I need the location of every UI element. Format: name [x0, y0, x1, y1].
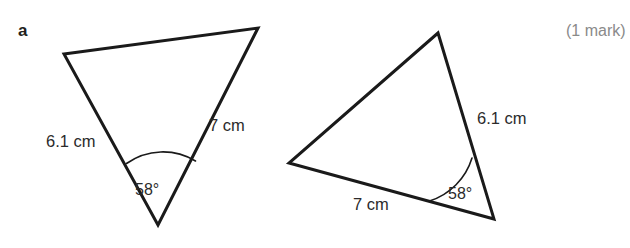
right-triangle-angle-label: 58°: [448, 186, 472, 202]
left-triangle-angle-label: 58°: [135, 182, 159, 198]
question-part-label: a: [18, 22, 27, 39]
left-triangle-side-label-7cm: 7 cm: [209, 117, 245, 134]
triangles-diagram: [0, 0, 630, 248]
marks-label: (1 mark): [566, 23, 626, 39]
right-triangle-side-label-7cm: 7 cm: [353, 196, 389, 213]
geometry-figure: a (1 mark) 6.1 cm 7 cm 58° 6.1 cm 7 cm 5…: [0, 0, 630, 248]
left-triangle-side-label-6-1cm: 6.1 cm: [46, 133, 96, 150]
right-triangle-side-label-6-1cm: 6.1 cm: [477, 110, 527, 127]
